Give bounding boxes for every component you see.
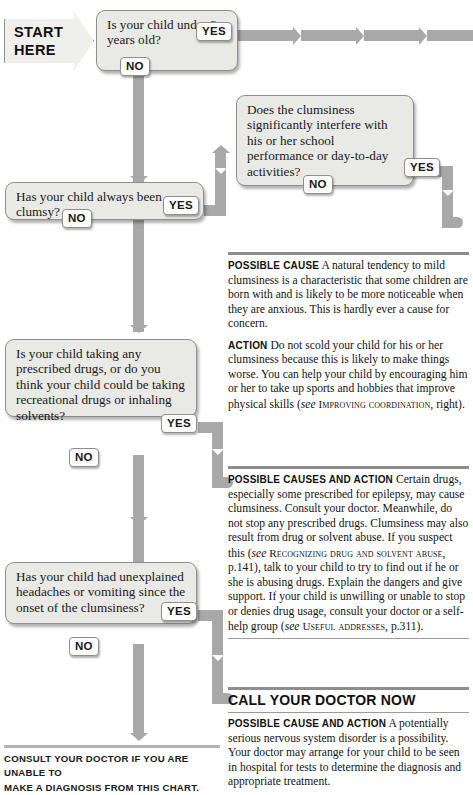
branch-tag-q1-no[interactable]: NO: [120, 57, 150, 76]
advice-paragraph: Possible cause and action A potentially …: [228, 717, 469, 790]
branch-label: YES: [410, 161, 434, 173]
branch-tag-q5-no[interactable]: NO: [69, 637, 99, 656]
connector-notch: [442, 190, 454, 196]
connector-arrowhead: [293, 27, 301, 45]
footer-line-1: Consult your doctor if you are unable to: [4, 753, 188, 778]
connector-arrowhead: [130, 517, 148, 525]
cross-reference-3[interactable]: Useful addresses: [302, 620, 385, 632]
branch-tag-q2-yes[interactable]: YES: [404, 158, 440, 177]
connector-arrowhead: [356, 27, 364, 45]
connector-q1-yes-seg4: [427, 30, 473, 41]
advice-rule-3: [228, 687, 469, 690]
advice-body-2b: , right).: [430, 398, 464, 411]
start-here-marker: START HERE: [4, 12, 94, 70]
advice-paragraph: Possible causes and action Certain drugs…: [228, 473, 469, 635]
advice-lead-1: Possible cause: [228, 260, 319, 271]
cross-reference-1[interactable]: Improving coordination: [319, 398, 431, 410]
branch-tag-q4-yes[interactable]: YES: [161, 414, 197, 433]
branch-label: NO: [68, 212, 86, 224]
start-line-1: START: [14, 24, 63, 40]
connector-q3-no: [133, 214, 144, 332]
footer-rule: [4, 745, 220, 748]
connector-cap: [452, 217, 463, 228]
branch-label: YES: [167, 417, 191, 429]
branch-tag-q3-no[interactable]: NO: [62, 209, 92, 228]
advice-block-1: Possible cause A natural tendency to mil…: [228, 259, 469, 419]
branch-label: YES: [167, 605, 191, 617]
branch-label: NO: [126, 60, 144, 72]
advice-paragraph: Possible cause A natural tendency to mil…: [228, 259, 469, 332]
connector-q5-no: [133, 644, 144, 736]
see-italic: see: [285, 620, 300, 633]
connector-q1-no: [133, 62, 144, 184]
connector-arrowhead: [419, 27, 427, 45]
branch-label: YES: [169, 199, 193, 211]
advice-body-3c: , p.311).: [385, 620, 423, 633]
connector-q1-yes-seg2: [301, 30, 356, 41]
connector-q4-no: [133, 455, 144, 565]
connector-arrowhead: [130, 733, 148, 741]
advice-rule-2: [228, 466, 469, 469]
branch-label: NO: [75, 640, 93, 652]
advice-rule-3-under: [228, 712, 469, 713]
cross-reference-2[interactable]: Recognizing drug and solvent abuse: [269, 547, 442, 559]
connector-arrowhead-up: [212, 145, 230, 153]
branch-tag-q2-no[interactable]: NO: [303, 175, 333, 194]
advice-rule-2-bottom: [228, 638, 469, 639]
connector-notch: [212, 449, 224, 455]
footer-note: Consult your doctor if you are unable to…: [4, 752, 226, 795]
connector-q1-yes-seg3: [364, 30, 419, 41]
advice-block-3: Possible cause and action A potentially …: [228, 717, 469, 795]
question-text-q4: Is your child taking any prescribed drug…: [16, 346, 187, 423]
advice-rule-1: [228, 252, 469, 255]
see-italic: see: [252, 547, 267, 560]
advice-paragraph: Action Do not scold your child for his o…: [228, 339, 469, 413]
footer-line-2: make a diagnosis from this chart.: [4, 782, 199, 793]
see-italic: see: [301, 398, 316, 411]
branch-label: YES: [202, 25, 226, 37]
advice-lead-3: Possible causes and action: [228, 474, 393, 485]
advice-lead-2: Action: [228, 340, 268, 351]
connector-cap: [215, 205, 226, 216]
connector-q1-yes: [238, 30, 293, 41]
branch-tag-q1-yes[interactable]: YES: [196, 22, 232, 41]
connector-arrowhead: [130, 325, 148, 333]
branch-tag-q5-yes[interactable]: YES: [161, 602, 197, 621]
question-box-q2[interactable]: Does the clumsiness significantly interf…: [236, 95, 414, 186]
branch-label: NO: [75, 451, 93, 463]
branch-tag-q3-yes[interactable]: YES: [163, 196, 199, 215]
question-text-q2: Does the clumsiness significantly interf…: [247, 102, 404, 179]
start-line-2: HERE: [14, 42, 56, 58]
advice-lead-4: Possible cause and action: [228, 718, 386, 729]
call-doctor-heading: CALL YOUR DOCTOR NOW: [228, 692, 469, 708]
connector-notch: [212, 655, 224, 661]
branch-tag-q4-no[interactable]: NO: [69, 448, 99, 467]
advice-block-2: Possible causes and action Certain drugs…: [228, 473, 469, 642]
question-box-q4[interactable]: Is your child taking any prescribed drug…: [5, 339, 197, 417]
connector-notch: [215, 168, 227, 174]
branch-label: NO: [309, 178, 327, 190]
